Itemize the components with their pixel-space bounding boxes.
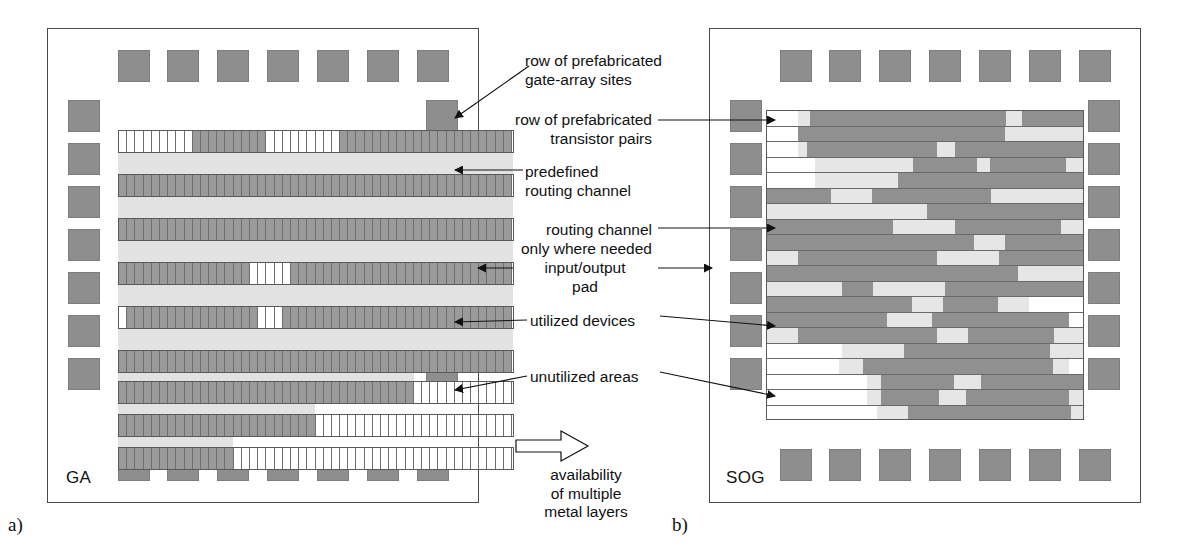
ga-site: [144, 175, 152, 196]
ga-site: [144, 415, 152, 436]
ga-io-pad-left-2: [68, 186, 100, 218]
ga-site: [266, 263, 274, 284]
ga-site: [332, 175, 340, 196]
ga-site: [340, 263, 348, 284]
ga-site: [291, 351, 299, 372]
ga-site: [373, 263, 381, 284]
ga-site: [283, 382, 291, 403]
ga-site: [176, 307, 184, 328]
ga-site: [463, 307, 471, 328]
annotation-gate-array-sites: row of prefabricated gate-array sites: [525, 52, 662, 89]
sog-row-2-segment-3-chan: [937, 142, 955, 157]
ga-site: [463, 351, 471, 372]
ga-site: [168, 219, 176, 240]
ga-site: [496, 382, 504, 403]
ga-site: [209, 307, 217, 328]
ga-site: [455, 415, 463, 436]
ga-site: [422, 263, 430, 284]
sog-row-4-segment-2-dev: [898, 173, 1084, 188]
sog-transistor-row-6: [767, 204, 1084, 220]
sog-io-pad-left-4: [730, 272, 762, 304]
ga-site: [381, 263, 389, 284]
ga-site: [332, 382, 340, 403]
ga-site: [119, 219, 127, 240]
ga-site: [381, 382, 389, 403]
ga-row-0-segment-0-free: [119, 131, 193, 152]
ga-site: [176, 351, 184, 372]
ga-site: [242, 263, 250, 284]
sog-transistor-row-12: [767, 297, 1084, 313]
sog-row-13-segment-0-dev: [767, 313, 887, 328]
ga-row-3-segment-1-free: [250, 263, 291, 284]
ga-site: [389, 263, 397, 284]
ga-site: [209, 415, 217, 436]
ga-site: [365, 382, 373, 403]
ga-site: [234, 131, 242, 152]
ga-row-6-segment-0-used: [119, 382, 414, 403]
ga-site: [225, 219, 233, 240]
ga-site: [397, 175, 405, 196]
ga-site: [217, 382, 225, 403]
ga-site: [209, 131, 217, 152]
ga-site: [291, 263, 299, 284]
ga-site: [365, 175, 373, 196]
ga-routing-channel-4: [118, 329, 513, 350]
ga-site: [242, 415, 250, 436]
ga-site: [160, 351, 168, 372]
ga-site: [201, 415, 209, 436]
ga-site: [185, 175, 193, 196]
ga-row-7-segment-0-used: [119, 415, 316, 436]
sog-row-11-segment-3-dev: [945, 282, 1084, 297]
ga-site: [307, 382, 315, 403]
ga-site: [307, 219, 315, 240]
ga-site: [447, 219, 455, 240]
sog-transistor-row-18: [767, 390, 1084, 406]
sog-transistor-row-2: [767, 142, 1084, 158]
ga-site: [471, 175, 479, 196]
ga-site: [406, 263, 414, 284]
ga-row-8-segment-1-free: [234, 448, 512, 469]
sog-row-5-segment-1-chan: [831, 189, 872, 204]
ga-site: [340, 382, 348, 403]
ga-site: [471, 382, 479, 403]
ga-site: [152, 415, 160, 436]
sog-io-pad-left-1: [730, 143, 762, 175]
ga-site: [324, 382, 332, 403]
ga-site: [316, 131, 324, 152]
sog-row-18-segment-5-chan: [1069, 390, 1084, 405]
ga-site: [266, 131, 274, 152]
ga-site: [332, 131, 340, 152]
ga-site: [438, 263, 446, 284]
sog-io-pad-right-4: [1088, 272, 1120, 304]
sog-io-pad-right-5: [1088, 315, 1120, 347]
sog-row-16-segment-0-empty: [767, 359, 839, 374]
ga-site: [225, 448, 233, 469]
ga-site: [144, 131, 152, 152]
ga-site: [307, 448, 315, 469]
sog-row-9-segment-3-dev: [999, 251, 1084, 266]
ga-io-pad-left-4: [68, 272, 100, 304]
sog-row-0-segment-1-chan: [798, 111, 810, 126]
ga-site: [234, 219, 242, 240]
ga-site: [176, 382, 184, 403]
sog-row-18-segment-4-dev: [966, 390, 1069, 405]
ga-site: [438, 219, 446, 240]
ga-site: [316, 351, 324, 372]
sog-transistor-row-14: [767, 328, 1084, 344]
ga-site: [504, 175, 512, 196]
ga-site: [373, 175, 381, 196]
ga-site: [152, 382, 160, 403]
ga-site: [225, 307, 233, 328]
ga-site: [504, 415, 512, 436]
ga-site: [414, 175, 422, 196]
sog-io-pad-left-5: [730, 315, 762, 347]
ga-site: [201, 175, 209, 196]
ga-site: [447, 131, 455, 152]
sog-io-pad-top-2: [879, 50, 911, 82]
ga-site: [185, 448, 193, 469]
ga-cell-row-3: [118, 262, 514, 285]
ga-site: [381, 415, 389, 436]
ga-site: [127, 307, 135, 328]
ga-site: [414, 448, 422, 469]
ga-site: [258, 131, 266, 152]
